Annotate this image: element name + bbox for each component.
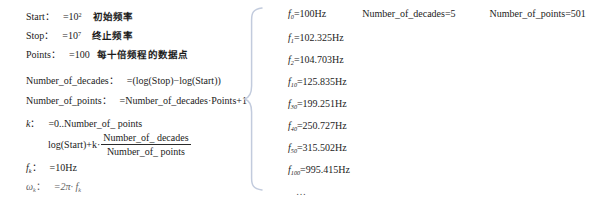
fraction-denominator: Number_of_ points bbox=[101, 144, 190, 157]
definition-row-omega-k: ωk： =2π· fk bbox=[26, 182, 241, 193]
stop-label: Stop bbox=[26, 31, 44, 41]
frequency-value: =250.727Hz bbox=[297, 120, 347, 131]
omega-k-value-subscript: k bbox=[78, 185, 81, 192]
number-of-decades-label: Number_of_decades bbox=[26, 76, 109, 86]
worksheet-sheet: Start： =102 初始频率 Stop： =107 终止频率 Points：… bbox=[0, 0, 591, 198]
fk-value: =10Hz bbox=[45, 163, 77, 173]
number-of-decades-colon: ： bbox=[109, 76, 122, 86]
points-label: Points bbox=[26, 50, 51, 60]
definition-row-k: k： =0..Number_of_ points bbox=[26, 119, 241, 129]
number-of-points-colon: ： bbox=[102, 96, 115, 106]
frequency-subscript: 100 bbox=[291, 168, 300, 175]
fk-exponent-formula: log(Start)+k· Number_of_ decades Number_… bbox=[26, 132, 241, 157]
points-note: 每十倍频程的数据点 bbox=[90, 50, 189, 60]
frequency-results-list: f1=102.325Hz f2=104.703Hz f10=125.835Hz … bbox=[288, 33, 586, 197]
points-value: =100 bbox=[64, 50, 90, 60]
frequency-value: =102.325Hz bbox=[294, 32, 344, 43]
list-item: f1=102.325Hz bbox=[288, 33, 586, 44]
omega-k-label: ωk bbox=[26, 182, 36, 193]
omega-k-value: =2π· fk bbox=[49, 182, 81, 193]
result-number-of-points: Number_of_points=501 bbox=[456, 9, 586, 19]
number-of-points-label: Number_of_points bbox=[26, 96, 102, 106]
decades-over-points-fraction: Number_of_ decades Number_of_ points bbox=[101, 132, 190, 157]
list-item: f10=125.835Hz bbox=[288, 77, 586, 88]
start-value: =102 bbox=[58, 12, 82, 22]
frequency-value: =315.502Hz bbox=[297, 142, 347, 153]
frequency-value: =995.415Hz bbox=[300, 164, 350, 175]
large-curly-brace-icon bbox=[243, 6, 265, 192]
result-number-of-decades-value: =5 bbox=[445, 8, 456, 19]
number-of-points-value: =Number_of_decades·Points+1 bbox=[115, 96, 247, 106]
results-top-row: f0=100Hz Number_of_decades=5 Number_of_p… bbox=[288, 9, 586, 20]
stop-colon: ： bbox=[44, 31, 57, 41]
k-colon: ： bbox=[30, 119, 43, 129]
fk-colon: ： bbox=[32, 163, 45, 173]
result-number-of-decades: Number_of_decades=5 bbox=[326, 9, 455, 19]
start-colon: ： bbox=[45, 12, 58, 22]
result-f0-value: =100Hz bbox=[294, 8, 326, 19]
list-item: f30=199.251Hz bbox=[288, 99, 586, 110]
list-item: f2=104.703Hz bbox=[288, 55, 586, 66]
points-colon: ： bbox=[51, 50, 64, 60]
fraction-numerator: Number_of_ decades bbox=[101, 132, 190, 144]
definitions-column: Start： =102 初始频率 Stop： =107 终止频率 Points：… bbox=[26, 9, 241, 192]
frequency-value: =125.835Hz bbox=[297, 76, 347, 87]
frequency-value: =199.251Hz bbox=[297, 98, 347, 109]
definition-row-fk: fk： =10Hz bbox=[26, 163, 241, 174]
results-column: f0=100Hz Number_of_decades=5 Number_of_p… bbox=[288, 9, 586, 197]
omega-k-colon: ： bbox=[36, 182, 49, 192]
result-f0: f0=100Hz bbox=[288, 9, 326, 20]
list-item: f50=315.502Hz bbox=[288, 143, 586, 154]
definition-row-stop: Stop： =107 终止频率 bbox=[26, 31, 241, 41]
list-item: f100=995.415Hz bbox=[288, 165, 586, 176]
definition-row-number-of-points: Number_of_points： =Number_of_decades·Poi… bbox=[26, 96, 241, 106]
stop-note: 终止频率 bbox=[81, 31, 133, 41]
number-of-decades-value: =(log(Stop)−log(Start)) bbox=[122, 76, 221, 86]
results-ellipsis: … bbox=[288, 187, 586, 197]
result-number-of-points-value: =501 bbox=[565, 8, 586, 19]
start-note: 初始频率 bbox=[82, 12, 134, 22]
definition-row-points: Points： =100 每十倍频程的数据点 bbox=[26, 50, 241, 60]
list-item: f40=250.727Hz bbox=[288, 121, 586, 132]
k-value: =0..Number_of_ points bbox=[43, 119, 142, 129]
definition-row-number-of-decades: Number_of_decades： =(log(Stop)−log(Start… bbox=[26, 76, 241, 86]
frequency-value: =104.703Hz bbox=[294, 54, 344, 65]
definition-row-start: Start： =102 初始频率 bbox=[26, 12, 241, 22]
stop-value: =107 bbox=[57, 31, 81, 41]
start-label: Start bbox=[26, 12, 45, 22]
fk-formula-lead: log(Start)+k· bbox=[48, 140, 101, 150]
